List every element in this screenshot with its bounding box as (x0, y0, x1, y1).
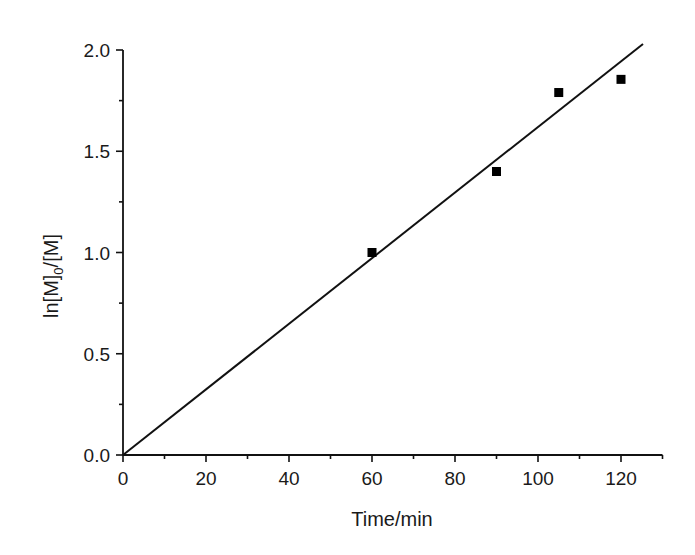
y-axis-ticks: 0.00.51.01.52.0 (84, 40, 123, 466)
x-tick-label: 100 (522, 468, 554, 489)
data-points (368, 75, 626, 257)
x-axis-title: Time/min (351, 508, 432, 530)
y-axis-title-tail: /[M] (40, 234, 62, 267)
data-point-square (617, 75, 626, 84)
y-tick-label: 1.0 (84, 243, 110, 264)
x-tick-label: 120 (605, 468, 637, 489)
plot-area: 020406080100120 0.00.51.01.52.0 (84, 40, 663, 489)
y-tick-label: 2.0 (84, 40, 110, 61)
y-tick-label: 1.5 (84, 141, 110, 162)
x-tick-label: 80 (444, 468, 465, 489)
chart: 020406080100120 0.00.51.01.52.0 Time/min… (0, 0, 695, 555)
data-point-square (368, 248, 377, 257)
data-point-square (492, 167, 501, 176)
x-tick-label: 60 (361, 468, 382, 489)
x-axis-ticks: 020406080100120 (118, 455, 663, 489)
y-tick-label: 0.5 (84, 344, 110, 365)
fit-line-group (123, 44, 643, 455)
x-tick-label: 20 (195, 468, 216, 489)
y-axis-title: ln[M]0/[M] (40, 234, 66, 318)
y-tick-label: 0.0 (84, 445, 110, 466)
y-axis-title-subscript: 0 (51, 267, 66, 274)
data-point-square (554, 88, 563, 97)
x-tick-label: 40 (278, 468, 299, 489)
x-tick-label: 0 (118, 468, 129, 489)
y-axis-title-main: ln[M] (40, 275, 62, 318)
fit-line (123, 44, 643, 455)
